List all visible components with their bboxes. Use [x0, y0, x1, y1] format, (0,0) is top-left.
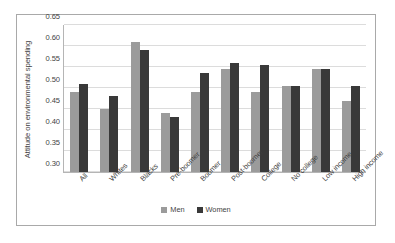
- bar-group: [306, 25, 336, 172]
- bar-men[interactable]: [161, 113, 170, 172]
- y-axis-tick-label: 0.50: [46, 75, 60, 84]
- y-axis-tick-label: 0.55: [46, 54, 60, 63]
- bar-women[interactable]: [200, 73, 209, 172]
- bar-group: [185, 25, 215, 172]
- y-axis-tick-label: 0.30: [46, 159, 60, 168]
- y-axis-tick-label: 0.35: [46, 138, 60, 147]
- bar-women[interactable]: [351, 86, 360, 172]
- bar-men[interactable]: [70, 92, 79, 172]
- y-axis-tick-label: 0.60: [46, 33, 60, 42]
- bar-women[interactable]: [321, 69, 330, 172]
- bar-group: [64, 25, 94, 172]
- bar-group: [124, 25, 154, 172]
- bar-group: [215, 25, 245, 172]
- bar-women[interactable]: [170, 117, 179, 172]
- chart-frame: Attitude on environmental spending 0.650…: [16, 14, 376, 226]
- legend-item-men[interactable]: Men: [161, 205, 184, 214]
- y-axis-title: Attitude on environmental spending: [22, 25, 34, 173]
- legend-item-women[interactable]: Women: [197, 205, 231, 214]
- legend-swatch-icon: [197, 207, 203, 213]
- bar-women[interactable]: [109, 96, 118, 172]
- legend-label: Men: [170, 205, 184, 214]
- bar-women[interactable]: [140, 50, 149, 172]
- y-axis-title-label: Attitude on environmental spending: [24, 40, 33, 157]
- bar-men[interactable]: [131, 42, 140, 172]
- bar-women[interactable]: [79, 84, 88, 172]
- y-axis-tick-label: 0.40: [46, 117, 60, 126]
- bar-group: [94, 25, 124, 172]
- bar-group: [336, 25, 366, 172]
- y-axis-tick-label: 0.65: [46, 12, 60, 21]
- bar-group: [155, 25, 185, 172]
- bar-men[interactable]: [282, 86, 291, 172]
- bar-group: [275, 25, 305, 172]
- bar-women[interactable]: [230, 63, 239, 172]
- bar-series-container: [64, 25, 366, 172]
- bar-men[interactable]: [221, 69, 230, 172]
- legend-label: Women: [206, 205, 231, 214]
- chart-legend: MenWomen: [17, 205, 375, 214]
- bar-women[interactable]: [291, 86, 300, 172]
- bar-men[interactable]: [100, 109, 109, 172]
- y-axis-tick-label: 0.45: [46, 96, 60, 105]
- legend-swatch-icon: [161, 207, 167, 213]
- plot-area: 0.650.600.550.500.450.400.350.30: [63, 25, 366, 173]
